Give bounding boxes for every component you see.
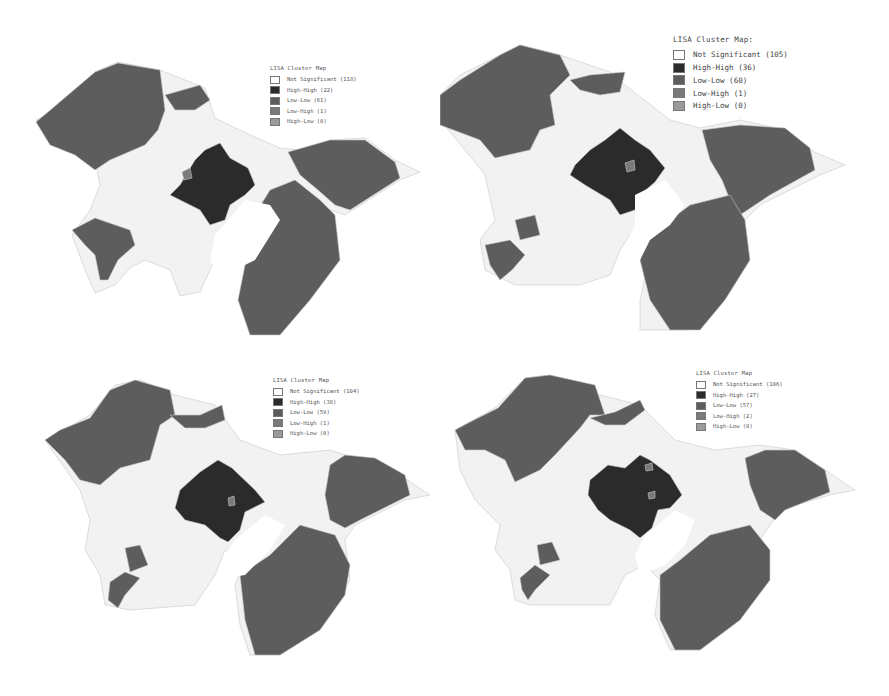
swatch-icon: [696, 391, 706, 399]
swatch-icon: [673, 75, 685, 85]
legend-item-low-low: Low-Low (59): [273, 408, 360, 419]
swatch-icon: [270, 97, 280, 105]
swatch-icon: [696, 423, 706, 431]
legend-item-high-high: High-High (36): [673, 61, 788, 74]
map-3-regions: [0, 350, 444, 696]
swatch-icon: [273, 419, 283, 427]
legend-item-high-low: High-Low (0): [673, 100, 788, 113]
swatch-icon: [273, 388, 283, 396]
swatch-icon: [270, 86, 280, 94]
legend-title: LISA Cluster Map: [270, 66, 357, 72]
legend-item-not-significant: Not Significant (106): [696, 380, 783, 391]
lisa-map-2: LISA Cluster Map: Not Significant (105) …: [440, 0, 884, 348]
legend-title: LISA Cluster Map:: [673, 36, 788, 44]
legend-item-high-high: High-High (38): [273, 397, 360, 408]
map-1-legend: LISA Cluster Map Not Significant (118) H…: [270, 66, 357, 127]
legend-item-high-low: High-Low (0): [696, 422, 783, 433]
swatch-icon: [696, 412, 706, 420]
region-low-high: [228, 496, 235, 506]
swatch-icon: [673, 63, 685, 73]
map-4-regions: [440, 350, 889, 696]
legend-item-high-high: High-High (27): [696, 390, 783, 401]
legend-item-low-low: Low-Low (57): [696, 401, 783, 412]
legend-item-not-significant: Not Significant (104): [273, 387, 360, 398]
swatch-icon: [673, 88, 685, 98]
legend-title: LISA Cluster Map: [273, 378, 360, 384]
swatch-icon: [273, 430, 283, 438]
map-2-regions: [440, 0, 889, 348]
swatch-icon: [673, 101, 685, 111]
legend-title: LISA Cluster Map: [696, 371, 783, 377]
legend-item-not-significant: Not Significant (118): [270, 75, 357, 86]
swatch-icon: [270, 107, 280, 115]
legend-item-low-low: Low-Low (61): [270, 96, 357, 107]
map-4-legend: LISA Cluster Map Not Significant (106) H…: [696, 371, 783, 432]
swatch-icon: [270, 76, 280, 84]
legend-item-high-low: High-Low (0): [270, 117, 357, 128]
map-3-legend: LISA Cluster Map Not Significant (104) H…: [273, 378, 360, 439]
swatch-icon: [273, 409, 283, 417]
legend-item-low-high: Low-High (1): [270, 106, 357, 117]
swatch-icon: [673, 50, 685, 60]
swatch-icon: [273, 398, 283, 406]
swatch-icon: [696, 402, 706, 410]
swatch-icon: [270, 118, 280, 126]
legend-item-high-low: High-Low (0): [273, 429, 360, 440]
map-2-legend: LISA Cluster Map: Not Significant (105) …: [673, 36, 788, 112]
legend-item-high-high: High-High (22): [270, 85, 357, 96]
legend-item-low-high: Low-High (2): [696, 411, 783, 422]
legend-item-low-low: Low-Low (60): [673, 74, 788, 87]
lisa-map-4: LISA Cluster Map Not Significant (106) H…: [440, 350, 884, 696]
legend-item-low-high: Low-High (1): [273, 418, 360, 429]
legend-item-low-high: Low-High (1): [673, 87, 788, 100]
swatch-icon: [696, 381, 706, 389]
lisa-map-1: LISA Cluster Map Not Significant (118) H…: [0, 0, 444, 348]
map-1-regions: [0, 0, 444, 348]
legend-item-not-significant: Not Significant (105): [673, 49, 788, 62]
lisa-map-3: LISA Cluster Map Not Significant (104) H…: [0, 350, 444, 696]
